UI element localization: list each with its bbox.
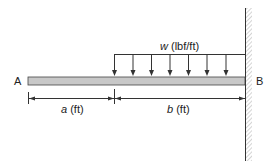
end-b-label: B [256, 75, 263, 87]
dim-a-label: a (ft) [61, 103, 84, 115]
dim-b-label: b (ft) [167, 103, 190, 115]
distributed-load: w (lbf/ft) [112, 40, 245, 76]
load-label: w (lbf/ft) [160, 40, 199, 52]
dimension-b: b (ft) [115, 97, 245, 116]
beam [28, 77, 245, 85]
dimension-a: a (ft) [29, 89, 115, 115]
end-a-label: A [14, 75, 22, 87]
load-arrows [112, 54, 229, 76]
beam-diagram: w (lbf/ft) A B a (ft) b (ft) [0, 0, 276, 167]
fixed-wall [245, 8, 252, 161]
